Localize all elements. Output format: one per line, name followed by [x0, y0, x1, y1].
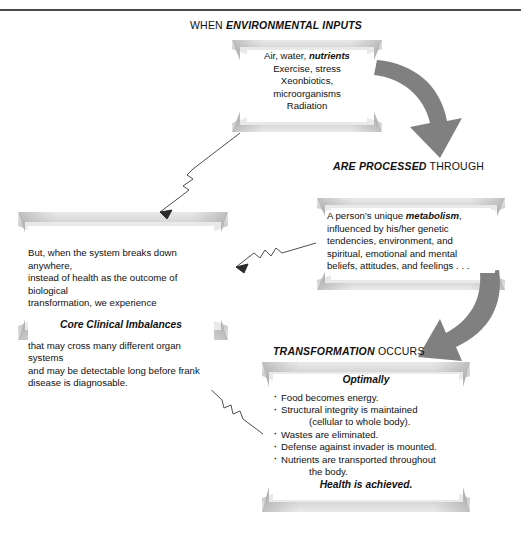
optimal-bullet-1-text: Food becomes energy.	[281, 392, 378, 403]
curved-arrow-metabolism-to-transformation	[418, 270, 500, 361]
heading-inputs-prefix: WHEN	[190, 19, 226, 31]
heading-transformation-suffix: OCCURS	[375, 345, 425, 357]
panel-metabolism: A person’s unique metabolism, influenced…	[327, 210, 495, 273]
curved-arrow-inputs-to-metabolism	[374, 60, 462, 158]
heading-transformation-emphasis: TRANSFORMATION	[273, 345, 375, 357]
optimal-bullet-1: Food becomes energy.	[273, 392, 459, 404]
heading-are-processed-through: ARE PROCESSED THROUGH	[333, 160, 484, 172]
heading-processed-emphasis: ARE PROCESSED	[333, 160, 427, 172]
optimal-bullet-5-continuation: the body.	[281, 466, 459, 478]
zigzag-arrow-metabolism-to-imbalance	[236, 243, 316, 273]
inputs-line-5: Radiation	[247, 100, 367, 113]
imbalance-outro-line-1: that may cross many different organ syst…	[28, 340, 214, 365]
heading-transformation-occurs: TRANSFORMATION OCCURS	[273, 345, 425, 357]
metabolism-line-2: influenced by his/her genetic	[327, 223, 495, 236]
zigzag-arrow-inputs-to-imbalance	[160, 133, 240, 219]
optimal-bullet-4-text: Defense against invader is mounted.	[281, 441, 437, 452]
metabolism-line-3: tendencies, environment, and	[327, 235, 495, 248]
inputs-line-3: Xeonbiotics,	[247, 75, 367, 88]
optimal-closing: Health is achieved.	[273, 479, 459, 492]
heading-environmental-inputs: WHEN ENVIRONMENTAL INPUTS	[190, 19, 362, 31]
optimal-bullet-5: Nutrients are transported throughoutthe …	[273, 454, 459, 479]
metabolism-line-1-emphasis: metabolism	[406, 210, 459, 221]
metabolism-line-1-tail: ,	[459, 210, 462, 221]
heading-inputs-emphasis: ENVIRONMENTAL INPUTS	[226, 19, 362, 31]
imbalance-subheading: Core Clinical Imbalances	[28, 319, 214, 332]
optimal-bullet-4: Defense against invader is mounted.	[273, 441, 459, 453]
inputs-line-1-emphasis: nutrients	[309, 50, 350, 61]
imbalance-intro-line-2: instead of health as the outcome of biol…	[28, 272, 214, 297]
imbalance-outro: that may cross many different organ syst…	[28, 340, 214, 390]
metabolism-line-1-plain: A person’s unique	[327, 210, 406, 221]
optimal-bullet-5-text: Nutrients are transported throughout	[281, 454, 436, 465]
panel-optimal-transformation: Optimally Food becomes energy.Structural…	[273, 374, 459, 492]
optimal-subheading: Optimally	[273, 374, 459, 387]
inputs-line-2: Exercise, stress	[247, 63, 367, 76]
imbalance-intro-line-1: But, when the system breaks down anywher…	[28, 247, 214, 272]
optimal-bullet-2: Structural integrity is maintained(cellu…	[273, 404, 459, 429]
optimal-bullet-list: Food becomes energy.Structural integrity…	[273, 392, 459, 479]
metabolism-line-4: spiritual, emotional and mental	[327, 248, 495, 261]
inputs-line-4: microorganisms	[247, 88, 367, 101]
imbalance-intro-line-3: transformation, we experience	[28, 297, 214, 310]
metabolism-line-1: A person’s unique metabolism,	[327, 210, 495, 223]
optimal-bullet-3: Wastes are eliminated.	[273, 429, 459, 441]
imbalance-outro-line-2: and may be detectable long before frank	[28, 365, 214, 378]
diagram-canvas: WHEN ENVIRONMENTAL INPUTS ARE PROCESSED …	[0, 0, 521, 536]
imbalance-intro: But, when the system breaks down anywher…	[28, 247, 214, 310]
heading-processed-suffix: THROUGH	[427, 160, 484, 172]
panel-core-clinical-imbalances: But, when the system breaks down anywher…	[28, 247, 214, 390]
inputs-line-1: Air, water, nutrients	[247, 50, 367, 63]
metabolism-line-5: beliefs, attitudes, and feelings . . .	[327, 260, 495, 273]
inputs-line-1-plain: Air, water,	[264, 50, 309, 61]
imbalance-outro-line-3: disease is diagnosable.	[28, 377, 214, 390]
optimal-bullet-2-text: Structural integrity is maintained	[281, 404, 418, 415]
optimal-bullet-3-text: Wastes are eliminated.	[281, 429, 378, 440]
panel-environmental-inputs: Air, water, nutrients Exercise, stress X…	[247, 50, 367, 113]
optimal-bullet-2-continuation: (cellular to whole body).	[281, 416, 459, 428]
